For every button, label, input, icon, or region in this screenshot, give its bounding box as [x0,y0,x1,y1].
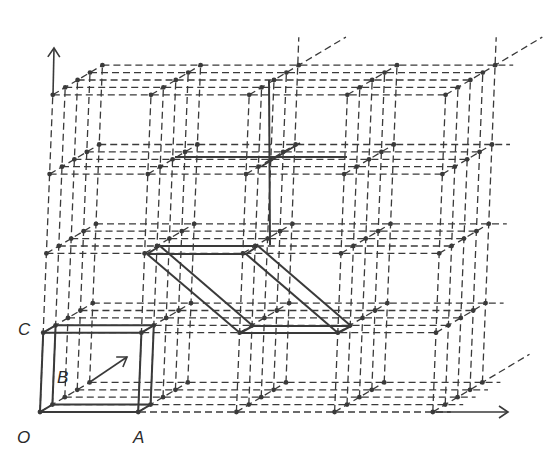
lattice-point [81,229,86,234]
lattice-point [382,380,387,385]
lattice-point [284,380,289,385]
sheared-cell-depth-edge [338,326,351,333]
lattice-point [477,150,482,155]
lattice-point [186,70,191,75]
unit-cell-front-edge [138,333,141,412]
lattice-point [161,85,166,90]
lattice-point [462,236,467,241]
lattice-point [195,142,200,147]
lattice-point [63,85,68,90]
lattice-point [332,410,337,415]
label-point-c: C [18,320,30,340]
lattice-point [192,221,197,226]
sheared-cell-depth-edge [240,326,253,333]
lattice-point [370,78,375,83]
lattice-point [256,164,261,169]
lattice-point [100,63,105,68]
lattice-point [176,308,181,313]
lattice-point [474,229,479,234]
lattice-point [149,92,154,97]
lattice-point [486,221,491,226]
lattice-point [376,229,381,234]
lattice-point [373,308,378,313]
lattice-point [360,316,365,321]
lattice-point [246,402,251,407]
unit-cell-depth-edge [141,325,153,332]
lattice-point [56,244,61,249]
lattice-point [379,150,384,155]
lattice-point [452,164,457,169]
lattice-point [164,316,169,321]
lattice-point [234,410,239,415]
lattice-point [388,221,393,226]
lattice-point [271,387,276,392]
lattice-point [363,236,368,241]
unit-cell-depth-edge [138,405,150,412]
unit-cell-depth-edge [43,325,55,332]
lattice-point [443,402,448,407]
lattice-point [367,157,372,162]
lattice-point [247,92,252,97]
lattice-point [357,85,362,90]
label-origin-o: O [17,428,30,448]
lattice-point [440,172,445,177]
lattice-point [259,85,264,90]
c-direction-line [286,37,299,382]
unit-cell-back-edge [52,325,55,404]
lattice-point [493,63,498,68]
lattice-point [345,402,350,407]
lattice-point [173,78,178,83]
lattice-point [142,251,147,256]
lattice-point [480,380,485,385]
lattice-point [75,78,80,83]
lattice-point [382,70,387,75]
lattice-point [170,157,175,162]
lattice-point [88,70,93,75]
lattice-point [72,157,77,162]
lattice-point [94,221,99,226]
unit-cell-front-edge [40,333,43,412]
b-axis-arrow [90,357,127,382]
lattice-point [342,172,347,177]
lattice-point [161,395,166,400]
lattice-point [44,251,49,256]
lattice-point [69,236,74,241]
lattice-point [483,301,488,306]
c-direction-line [482,37,496,382]
lattice-point [278,229,283,234]
lattice-point [385,301,390,306]
lattice-point [369,387,374,392]
lattice-point [437,251,442,256]
lattice-point [446,323,451,328]
lattice-point [449,244,454,249]
lattice-point [274,308,279,313]
lattice-point [75,387,80,392]
lattice-point [465,157,470,162]
lattice-point [90,301,95,306]
lattice-point [490,142,495,147]
lattice-point [262,316,267,321]
lattice-point [189,301,194,306]
lattice-point [458,316,463,321]
lattice-point [391,142,396,147]
lattice-point [456,85,461,90]
lattice-point [351,244,356,249]
lattice-point [468,78,473,83]
lattice-point [185,380,190,385]
lattice-point [97,142,102,147]
lattice-point [179,229,184,234]
lattice-point [284,70,289,75]
axis-arrows [48,48,508,418]
lattice-point [244,172,249,177]
lattice-point [354,164,359,169]
lattice-point [145,172,150,177]
lattice-point [78,308,83,313]
lattice-point [468,387,473,392]
lattice-diagram [0,0,557,458]
lattice-point [62,395,67,400]
lattice-point [290,221,295,226]
lattice-point [198,63,203,68]
lattice-point [480,70,485,75]
lattice-point [60,164,65,169]
c-axis-arrow [53,48,54,95]
